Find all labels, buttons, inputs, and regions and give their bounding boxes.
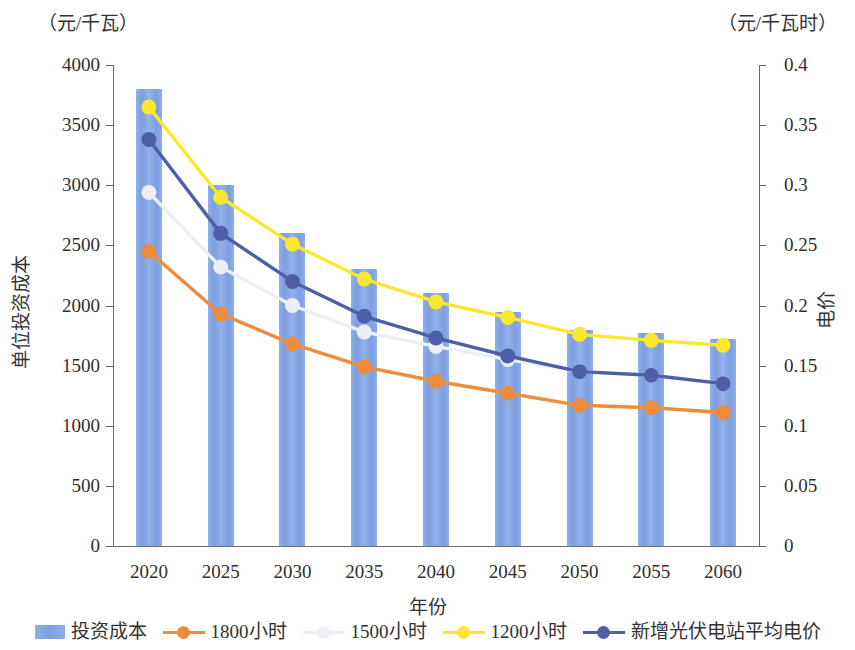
legend-item[interactable]: 新增光伏电站平均电价 — [583, 622, 821, 641]
data-point-marker — [357, 359, 372, 374]
right-axis-tick — [759, 306, 766, 307]
right-axis-tick — [759, 366, 766, 367]
line-series-layer — [113, 65, 759, 546]
data-point-marker — [500, 349, 515, 364]
x-axis-tick-label: 2060 — [683, 561, 763, 583]
legend-item[interactable]: 1800小时 — [163, 622, 287, 641]
right-axis-tick-label: 0.2 — [784, 296, 808, 315]
data-point-marker — [213, 260, 228, 275]
legend-label: 新增光伏电站平均电价 — [631, 622, 821, 641]
right-axis-tick — [759, 546, 766, 547]
legend-line-swatch — [443, 625, 485, 639]
data-point-marker — [500, 310, 515, 325]
legend-line-swatch — [163, 625, 205, 639]
left-axis-tick-label: 4000 — [62, 55, 100, 74]
legend-marker-dot — [177, 626, 190, 639]
right-axis-tick — [759, 125, 766, 126]
x-axis-tick-label: 2025 — [181, 561, 261, 583]
x-axis-tick-label: 2055 — [611, 561, 691, 583]
line-path — [149, 192, 723, 383]
data-point-marker — [716, 376, 731, 391]
left-axis-tick — [106, 546, 113, 547]
line-path — [149, 107, 723, 345]
legend-line-swatch — [303, 625, 345, 639]
data-point-marker — [716, 405, 731, 420]
left-axis-tick — [106, 306, 113, 307]
x-axis-tick-label: 2045 — [468, 561, 548, 583]
right-axis-tick-label: 0.1 — [784, 416, 808, 435]
data-point-marker — [141, 132, 156, 147]
x-axis-tick-label: 2030 — [252, 561, 332, 583]
x-axis-line — [113, 546, 759, 547]
data-point-marker — [213, 226, 228, 241]
line-series — [141, 185, 730, 391]
chart-container: （元/千瓦） （元/千瓦时） 单位投资成本 电价 年份 050010001500… — [0, 0, 855, 650]
line-series — [141, 100, 730, 353]
right-axis-tick-label: 0.4 — [784, 55, 808, 74]
legend-item[interactable]: 1200小时 — [443, 622, 567, 641]
right-axis-tick — [759, 245, 766, 246]
data-point-marker — [572, 398, 587, 413]
left-axis-tick — [106, 185, 113, 186]
x-axis-title: 年份 — [0, 592, 855, 619]
left-axis-tick-label: 2500 — [62, 235, 100, 254]
data-point-marker — [285, 237, 300, 252]
right-axis-tick-label: 0.15 — [784, 356, 817, 375]
data-point-marker — [429, 374, 444, 389]
legend-item[interactable]: 投资成本 — [35, 622, 147, 641]
legend-line-swatch — [583, 625, 625, 639]
right-axis-tick — [759, 65, 766, 66]
left-axis-tick — [106, 366, 113, 367]
legend-label: 1800小时 — [211, 622, 287, 641]
chart-legend: 投资成本1800小时1500小时1200小时新增光伏电站平均电价 — [0, 622, 855, 641]
left-axis-title: 单位投资成本 — [6, 259, 33, 369]
left-axis-tick — [106, 125, 113, 126]
right-axis-tick-label: 0.25 — [784, 235, 817, 254]
data-point-marker — [644, 333, 659, 348]
right-axis-tick — [759, 426, 766, 427]
right-axis-tick-label: 0.3 — [784, 175, 808, 194]
legend-marker-dot — [597, 626, 610, 639]
plot-area: 05001000150020002500300035004000 00.050.… — [113, 65, 759, 546]
legend-label: 1500小时 — [351, 622, 427, 641]
left-axis-tick — [106, 245, 113, 246]
right-axis-tick — [759, 486, 766, 487]
legend-item[interactable]: 1500小时 — [303, 622, 427, 641]
left-axis-tick — [106, 426, 113, 427]
right-axis-tick-label: 0 — [784, 536, 794, 555]
left-axis-tick-label: 3500 — [62, 115, 100, 134]
data-point-marker — [357, 324, 372, 339]
data-point-marker — [141, 185, 156, 200]
data-point-marker — [429, 330, 444, 345]
legend-label: 1200小时 — [491, 622, 567, 641]
data-point-marker — [213, 190, 228, 205]
left-axis-tick-label: 3000 — [62, 175, 100, 194]
data-point-marker — [213, 306, 228, 321]
left-axis-tick-label: 1000 — [62, 416, 100, 435]
data-point-marker — [141, 100, 156, 115]
data-point-marker — [572, 364, 587, 379]
data-point-marker — [572, 327, 587, 342]
data-point-marker — [357, 272, 372, 287]
data-point-marker — [285, 336, 300, 351]
left-axis-tick-label: 2000 — [62, 296, 100, 315]
data-point-marker — [644, 400, 659, 415]
x-axis-tick-label: 2040 — [396, 561, 476, 583]
right-axis-tick-label: 0.05 — [784, 476, 817, 495]
x-axis-tick-label: 2050 — [540, 561, 620, 583]
left-axis-tick — [106, 486, 113, 487]
left-axis-tick — [106, 65, 113, 66]
right-axis-tick-label: 0.35 — [784, 115, 817, 134]
left-axis-unit-label: （元/千瓦） — [38, 8, 138, 35]
left-axis-tick-label: 1500 — [62, 356, 100, 375]
left-axis-tick-label: 0 — [91, 536, 101, 555]
data-point-marker — [429, 294, 444, 309]
data-point-marker — [500, 386, 515, 401]
x-axis-tick-label: 2035 — [324, 561, 404, 583]
legend-marker-dot — [457, 626, 470, 639]
x-axis-tick-label: 2020 — [109, 561, 189, 583]
legend-bar-swatch — [35, 625, 65, 639]
data-point-marker — [357, 309, 372, 324]
right-axis-tick — [759, 185, 766, 186]
right-axis-unit-label: （元/千瓦时） — [718, 8, 837, 35]
